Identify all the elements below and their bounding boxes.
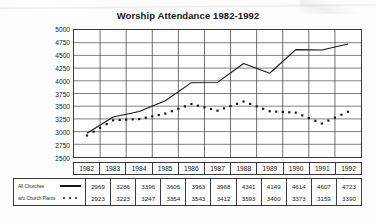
y-axis-tick-label: 2500 [30,155,70,162]
y-axis-tick-label: 3250 [30,116,70,123]
legend-label-without-church-plants: w/o Church Plants [18,196,59,201]
x-axis-tick-label: 1990 [284,163,310,174]
table-column: 46143373 [287,179,312,205]
y-axis-tick-label: 4250 [30,64,70,71]
y-axis-tick-label: 3500 [30,103,70,110]
chart-page: Worship Attendance 1982-1992 50004750450… [0,0,376,224]
table-cell-value: 3396 [136,180,160,192]
table-column: 33963247 [136,179,161,205]
x-axis-tick-label: 1984 [126,163,152,174]
table-cell-value: 4149 [262,180,286,192]
page-title: Worship Attendance 1982-1992 [0,10,376,21]
table-column: 32863223 [111,179,136,205]
table-cell-value: 3606 [161,180,185,192]
y-axis-labels: 5000475045004250400037503500325030002750… [28,29,70,158]
table-column: 46073159 [312,179,337,205]
legend-item-all-churches: All Churches [18,180,81,192]
x-axis-tick-label: 1989 [257,163,283,174]
legend-swatch-solid-line-icon [59,182,81,190]
table-column: 39633543 [186,179,211,205]
table-cell-value: 3159 [312,192,336,204]
y-axis-tick-label: 3000 [30,129,70,136]
legend-label-all-churches: All Churches [18,184,59,189]
table-cell-value: 3400 [262,192,286,204]
table-cell-value: 3247 [136,192,160,204]
x-axis-tick-label: 1985 [153,163,179,174]
x-axis-tick-label: 1991 [310,163,336,174]
series-lines [74,30,361,157]
table-cell-value: 3968 [211,180,235,192]
y-axis-tick-label: 4500 [30,51,70,58]
x-axis-tick-label: 1992 [336,163,362,174]
table-cell-value: 4341 [237,180,261,192]
table-cell-value: 4607 [312,180,336,192]
table-cell-value: 3223 [111,192,135,204]
x-axis-labels: 1982198319841985198619871988198919901991… [73,162,362,175]
table-column: 39683412 [211,179,236,205]
table-cell-value: 3412 [211,192,235,204]
y-axis-tick-label: 2750 [30,142,70,149]
table-column: 36063354 [161,179,186,205]
x-axis-tick-label: 1986 [179,163,205,174]
table-cell-value: 3963 [186,180,210,192]
table-cell-value: 3593 [237,192,261,204]
legend-item-without-church-plants: w/o Church Plants [18,192,81,204]
table-column: 41493400 [262,179,287,205]
x-axis-tick-label: 1987 [205,163,231,174]
table-cell-value: 2923 [86,192,110,204]
y-axis-tick-label: 5000 [30,26,70,33]
y-axis-tick-label: 4750 [30,38,70,45]
table-cell-value: 3354 [161,192,185,204]
y-axis-tick-label: 4000 [30,77,70,84]
table-cell-value: 3373 [287,192,311,204]
scan-artifact [0,3,376,10]
x-axis-tick-label: 1983 [100,163,126,174]
table-cell-value: 4723 [337,180,361,192]
legend: All Churches w/o Church Plants [14,179,86,205]
table-column: 47233390 [337,179,362,205]
y-axis-tick-label: 3750 [30,90,70,97]
x-axis-tick-label: 1988 [231,163,257,174]
table-cell-value: 3390 [337,192,361,204]
data-table: All Churches w/o Church Plants 296929233… [13,178,362,206]
table-cell-value: 3543 [186,192,210,204]
table-cell-value: 2969 [86,180,110,192]
x-axis-tick-label: 1982 [74,163,100,174]
table-cell-value: 4614 [287,180,311,192]
table-cell-value: 3286 [111,180,135,192]
plot-area [73,29,362,158]
table-column: 43413593 [237,179,262,205]
table-column: 29692923 [86,179,111,205]
legend-swatch-dotted-icon [59,194,81,202]
